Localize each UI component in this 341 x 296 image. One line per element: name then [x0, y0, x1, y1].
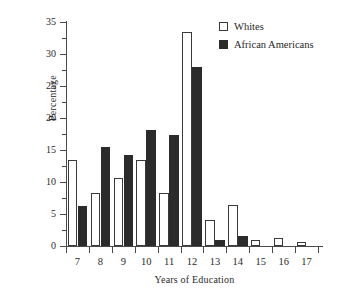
y-tick-label: 30 — [34, 49, 56, 59]
y-tick-label: 10 — [34, 177, 56, 187]
y-tick-label-wrap: 10 — [32, 177, 56, 187]
legend-item-african-americans: African Americans — [219, 37, 314, 52]
y-tick-label-wrap: 0 — [32, 241, 56, 251]
x-tick — [89, 247, 90, 253]
y-tick-label-wrap: 30 — [32, 49, 56, 59]
x-tick — [66, 247, 67, 253]
bar-african-americans-14 — [238, 236, 248, 246]
y-tick-label: 5 — [34, 209, 56, 219]
y-tick-label: 35 — [34, 17, 56, 27]
y-tick-label: 25 — [34, 81, 56, 91]
chart-legend: Whites African Americans — [219, 19, 314, 55]
bar-chart: Percentage 05101520253035 78910111213141… — [0, 0, 341, 296]
bar-african-americans-9 — [124, 155, 134, 246]
hollow-square-icon — [219, 22, 228, 31]
bar-whites-15 — [251, 240, 261, 246]
bar-african-americans-13 — [215, 240, 225, 246]
y-tick-label: 20 — [34, 113, 56, 123]
y-tick-label-wrap: 5 — [32, 209, 56, 219]
bar-whites-9 — [114, 178, 124, 246]
legend-label-african-americans: African Americans — [234, 39, 314, 50]
legend-item-whites: Whites — [219, 19, 314, 34]
x-tick — [181, 247, 182, 253]
y-tick-label: 0 — [34, 241, 56, 251]
bar-african-americans-10 — [146, 130, 156, 246]
x-tick — [158, 247, 159, 253]
legend-label-whites: Whites — [234, 21, 264, 32]
bar-whites-17 — [297, 242, 307, 246]
y-tick-label: 15 — [34, 145, 56, 155]
bar-whites-16 — [274, 238, 284, 246]
x-tick — [203, 247, 204, 253]
x-axis-title: Years of Education — [66, 274, 323, 285]
x-tick — [249, 247, 250, 253]
x-tick — [272, 247, 273, 253]
bars-layer — [66, 22, 318, 246]
filled-square-icon — [219, 40, 228, 49]
x-tick — [295, 247, 296, 253]
y-tick-label-wrap: 25 — [32, 81, 56, 91]
y-tick-label-wrap: 15 — [32, 145, 56, 155]
x-tick — [318, 247, 319, 253]
x-tick-label-17: 17 — [292, 256, 322, 267]
bar-whites-7 — [68, 160, 78, 246]
bar-african-americans-8 — [101, 147, 111, 246]
bar-whites-14 — [228, 205, 238, 246]
x-axis-line — [66, 246, 323, 247]
x-tick — [135, 247, 136, 253]
bar-whites-8 — [91, 193, 101, 246]
x-tick — [112, 247, 113, 253]
y-tick-label-wrap: 35 — [32, 17, 56, 27]
bar-whites-10 — [136, 160, 146, 246]
bar-whites-12 — [182, 32, 192, 246]
bar-whites-13 — [205, 220, 215, 246]
bar-african-americans-12 — [192, 67, 202, 246]
bar-african-americans-7 — [78, 206, 88, 246]
bar-whites-11 — [159, 193, 169, 246]
x-tick — [226, 247, 227, 253]
y-axis-title: Percentage — [47, 43, 58, 153]
y-tick-label-wrap: 20 — [32, 113, 56, 123]
bar-african-americans-11 — [169, 135, 179, 246]
